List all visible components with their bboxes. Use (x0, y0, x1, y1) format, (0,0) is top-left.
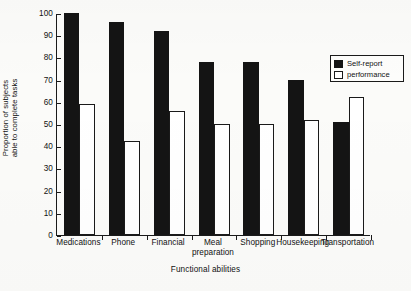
bar-performance (259, 124, 275, 235)
y-axis-tick (57, 125, 61, 126)
legend-item-performance: performance (334, 69, 400, 80)
y-axis-tick-label: 80 (44, 54, 53, 62)
y-axis-tick (57, 36, 61, 37)
y-axis-tick-label: 100 (39, 10, 53, 18)
bar-performance (349, 97, 365, 235)
bar-performance (124, 141, 140, 235)
legend-label-performance: performance (347, 71, 390, 79)
bar-performance (214, 124, 230, 235)
y-axis-tick (57, 147, 61, 148)
y-axis-tick-label: 40 (44, 143, 53, 151)
y-axis-tick (57, 214, 61, 215)
y-axis-tick (57, 14, 61, 15)
y-axis-tick (57, 103, 61, 104)
chart-legend: Self-report performance (330, 55, 404, 82)
y-axis-tick-label: 60 (44, 99, 53, 107)
legend-item-self-report: Self-report (334, 58, 400, 69)
y-axis-tick-label: 30 (44, 165, 53, 173)
y-axis-tick-label: 90 (44, 32, 53, 40)
y-axis-title-line-2: able to complete tasks (10, 79, 19, 158)
legend-label-self-report: Self-report (347, 60, 382, 68)
bar-self-report (64, 13, 80, 235)
bar-self-report (288, 80, 304, 235)
x-axis-category-label: Transportation (319, 238, 376, 248)
y-axis-title-line-1: Proportion of subjects (1, 79, 10, 158)
bar-self-report (333, 122, 349, 235)
bar-self-report (243, 62, 259, 235)
legend-swatch-self-report-icon (334, 60, 343, 68)
bar-self-report (154, 31, 170, 235)
y-axis-tick (57, 58, 61, 59)
bar-self-report (199, 62, 215, 235)
y-axis-tick (57, 192, 61, 193)
y-axis-tick (57, 236, 61, 237)
x-axis-category-label-line: Transportation (319, 238, 376, 248)
bar-performance (169, 111, 185, 235)
plot-area: 0102030405060708090100 (56, 14, 370, 236)
y-axis-title: Proportion of subjects able to complete … (1, 79, 20, 158)
bar-self-report (109, 22, 125, 235)
y-axis-tick (57, 81, 61, 82)
y-axis-tick-label: 50 (44, 121, 53, 129)
legend-swatch-performance-icon (334, 71, 343, 79)
y-axis-tick-label: 10 (44, 210, 53, 218)
x-axis-category-label-line: preparation (185, 248, 242, 258)
y-axis-tick (57, 169, 61, 170)
bar-performance (79, 104, 95, 235)
y-axis-tick-label: 20 (44, 187, 53, 195)
bar-performance (304, 120, 320, 235)
y-axis-tick-label: 70 (44, 76, 53, 84)
x-axis-title: Functional abilities (0, 265, 411, 274)
x-axis-category-labels: MedicationsPhoneFinancialMealpreparation… (56, 238, 370, 264)
bar-chart-figure: Proportion of subjects able to complete … (0, 0, 411, 291)
